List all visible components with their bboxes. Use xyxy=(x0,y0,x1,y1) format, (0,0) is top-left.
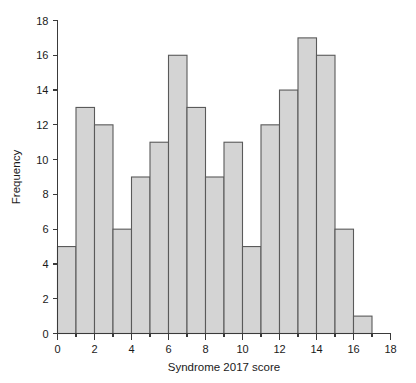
histogram-bar xyxy=(132,177,151,334)
histogram-bar xyxy=(261,125,280,334)
y-tick-label: 16 xyxy=(36,49,48,61)
histogram-bar xyxy=(150,142,169,333)
histogram-bar xyxy=(187,107,206,333)
x-tick-label: 8 xyxy=(202,343,208,355)
y-tick-label: 2 xyxy=(42,293,48,305)
histogram-bar xyxy=(224,142,243,333)
y-axis-title: Frequency xyxy=(10,150,22,205)
histogram-bar xyxy=(335,229,354,333)
y-tick-label: 14 xyxy=(36,84,48,96)
y-tick-label: 6 xyxy=(42,223,48,235)
histogram-bar xyxy=(95,125,114,334)
histogram-bar xyxy=(317,55,336,333)
x-tick-label: 10 xyxy=(236,343,248,355)
x-tick-label: 18 xyxy=(384,343,396,355)
x-tick-label: 0 xyxy=(54,343,60,355)
histogram-bar xyxy=(58,247,77,334)
y-tick-label: 8 xyxy=(42,188,48,200)
histogram-bar xyxy=(243,247,262,334)
histogram-figure: 024681012141618 024681012141618 Syndrome… xyxy=(0,0,416,383)
x-axis-title: Syndrome 2017 score xyxy=(168,361,281,373)
histogram-bar xyxy=(280,90,299,333)
y-tick-label: 18 xyxy=(36,15,48,27)
histogram-bar xyxy=(113,229,132,333)
x-tick-label: 6 xyxy=(165,343,171,355)
y-tick-label: 0 xyxy=(42,328,48,340)
x-tick-label: 4 xyxy=(128,343,134,355)
histogram-bar xyxy=(354,316,373,333)
histogram-chart: 024681012141618 024681012141618 Syndrome… xyxy=(0,0,416,383)
histogram-bar xyxy=(206,177,225,334)
histogram-bar xyxy=(298,38,317,334)
x-tick-label: 16 xyxy=(347,343,359,355)
histogram-bar xyxy=(169,55,188,333)
x-tick-label: 2 xyxy=(91,343,97,355)
y-tick-label: 10 xyxy=(36,154,48,166)
y-tick-label: 12 xyxy=(36,119,48,131)
y-tick-label: 4 xyxy=(42,258,48,270)
x-tick-label: 14 xyxy=(310,343,322,355)
x-tick-label: 12 xyxy=(273,343,285,355)
histogram-bar xyxy=(76,107,95,333)
